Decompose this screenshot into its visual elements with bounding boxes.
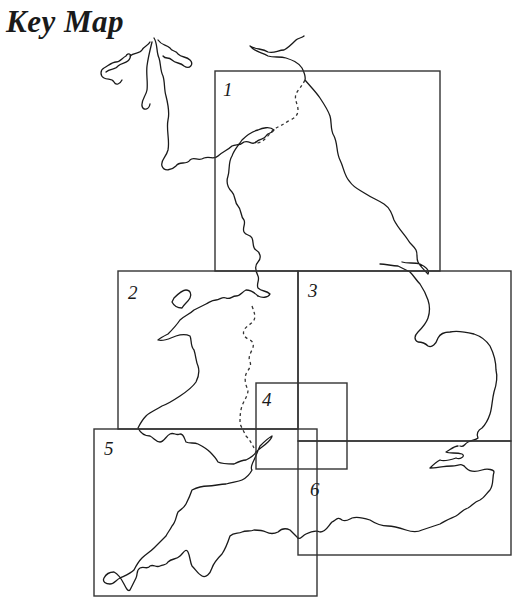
coastline-england-northwest — [227, 128, 274, 298]
coastline-wales — [138, 290, 258, 464]
coastline-scotland-sw — [142, 38, 256, 170]
coastline-scotland-sea-loch — [158, 40, 192, 67]
section-box-3[interactable] — [298, 271, 511, 441]
border-scotland-england — [256, 80, 305, 143]
coastline-east-england — [380, 264, 497, 447]
coastline-south-east — [298, 446, 494, 539]
coastline-anglesey — [172, 290, 191, 308]
section-box-1[interactable] — [215, 71, 440, 271]
key-map: 1 2 3 4 5 6 — [0, 0, 515, 599]
section-label-6: 6 — [310, 479, 320, 500]
section-box-5[interactable] — [94, 429, 317, 596]
section-label-2: 2 — [128, 282, 138, 303]
coastline-severn-southwest — [103, 436, 298, 591]
section-label-4: 4 — [262, 389, 272, 410]
section-label-1: 1 — [223, 79, 233, 100]
section-label-5: 5 — [104, 438, 114, 459]
section-label-3: 3 — [307, 280, 318, 301]
coastline-scotland-west-islands — [101, 42, 150, 84]
border-wales-england — [240, 306, 255, 448]
section-box-6[interactable] — [298, 441, 511, 555]
